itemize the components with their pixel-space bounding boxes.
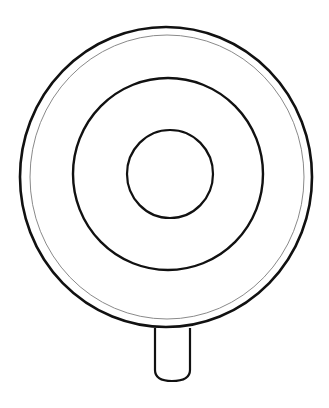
middle-candy-circle <box>73 78 263 270</box>
outer-candy-circle <box>20 27 312 327</box>
lollipop-stick <box>155 328 190 381</box>
inner-candy-circle <box>127 130 213 218</box>
lollipop-drawing <box>0 0 329 408</box>
